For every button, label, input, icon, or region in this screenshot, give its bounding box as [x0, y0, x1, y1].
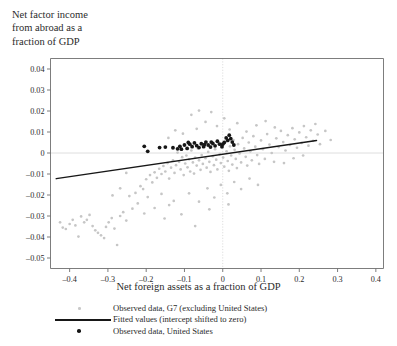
data-point-g7: [275, 137, 278, 140]
data-point-us: [142, 144, 146, 148]
y-tick-label: 0.01: [30, 128, 44, 137]
data-point-g7: [223, 117, 226, 120]
data-point-g7: [172, 200, 175, 203]
data-point-us: [146, 149, 150, 153]
data-point-g7: [195, 128, 198, 131]
data-point-g7: [80, 215, 83, 218]
data-point-g7: [179, 168, 182, 171]
data-point-g7: [190, 149, 193, 152]
data-point-g7: [227, 203, 230, 206]
data-point-g7: [158, 167, 161, 170]
data-point-g7: [234, 158, 237, 161]
data-point-us: [197, 146, 201, 150]
data-point-g7: [153, 207, 156, 210]
data-point-g7: [237, 143, 240, 146]
data-point-us: [213, 144, 217, 148]
data-point-g7: [223, 165, 226, 168]
data-point-us: [171, 146, 175, 150]
data-point-g7: [273, 160, 276, 163]
data-point-g7: [210, 111, 213, 114]
data-point-g7: [226, 160, 229, 163]
gray-dot-marker-icon: [78, 307, 81, 310]
data-point-g7: [198, 159, 201, 162]
data-point-g7: [103, 237, 106, 240]
data-point-us: [202, 143, 206, 147]
data-point-g7: [207, 151, 210, 154]
data-point-g7: [280, 130, 283, 133]
data-point-g7: [215, 158, 218, 161]
data-point-g7: [182, 132, 185, 135]
data-point-g7: [302, 154, 305, 157]
data-point-g7: [184, 162, 187, 165]
data-point-g7: [198, 200, 201, 203]
data-point-g7: [293, 138, 296, 141]
data-point-g7: [266, 133, 269, 136]
data-point-g7: [88, 214, 91, 217]
data-point-g7: [329, 139, 332, 142]
data-point-g7: [305, 136, 308, 139]
data-point-us: [232, 143, 236, 147]
data-point-g7: [173, 172, 176, 175]
data-point-g7: [208, 208, 211, 211]
y-tick-label: –0.05: [25, 254, 44, 263]
data-point-g7: [254, 145, 257, 148]
data-point-us: [183, 143, 187, 147]
data-point-g7: [149, 174, 152, 177]
data-point-g7: [236, 167, 239, 170]
y-tick-label: –0.04: [25, 233, 44, 242]
data-point-g7: [283, 162, 286, 165]
data-point-g7: [206, 187, 209, 190]
data-point-g7: [231, 163, 234, 166]
fitted-line-layer: [56, 140, 316, 178]
data-point-g7: [136, 202, 139, 205]
data-point-g7: [113, 227, 116, 230]
axes-frame-layer: [51, 59, 384, 269]
data-point-g7: [156, 176, 159, 179]
data-point-g7: [319, 143, 322, 146]
data-point-g7: [164, 170, 167, 173]
data-point-g7: [153, 171, 156, 174]
g7-points-layer: [59, 109, 332, 246]
data-point-g7: [204, 121, 207, 124]
data-point-g7: [282, 141, 285, 144]
y-tick-label: –0.01: [25, 170, 44, 179]
y-tick-label: 0.03: [30, 86, 44, 95]
data-point-us: [209, 140, 213, 144]
data-point-g7: [190, 113, 193, 116]
data-point-g7: [71, 218, 74, 221]
data-point-g7: [175, 164, 178, 167]
data-point-g7: [270, 152, 273, 155]
data-point-g7: [226, 192, 229, 195]
data-point-g7: [192, 161, 195, 164]
data-point-g7: [260, 139, 263, 142]
data-point-g7: [122, 211, 125, 214]
data-point-us: [227, 133, 231, 137]
data-point-g7: [100, 234, 103, 237]
data-point-g7: [258, 163, 261, 166]
data-point-g7: [225, 150, 228, 153]
data-point-g7: [143, 212, 146, 215]
data-point-g7: [162, 165, 165, 168]
data-point-g7: [219, 162, 222, 165]
data-point-g7: [222, 156, 225, 159]
data-point-g7: [257, 184, 260, 187]
data-point-us: [178, 144, 182, 148]
x-axis-title: Net foreign assets as a fraction of GDP: [0, 281, 397, 292]
data-point-g7: [209, 171, 212, 174]
data-point-g7: [233, 181, 236, 184]
data-point-g7: [303, 125, 306, 128]
legend-label-fitted: Fitted values (intercept shifted to zero…: [113, 314, 246, 324]
data-point-g7: [284, 149, 287, 152]
axis-tick-labels-layer: 0.040.030.020.010–0.01–0.02–0.03–0.04–0.…: [25, 65, 381, 283]
data-point-g7: [186, 166, 189, 169]
data-point-g7: [200, 154, 203, 157]
scatter-plot: 0.040.030.020.010–0.01–0.02–0.03–0.04–0.…: [0, 0, 397, 346]
data-point-g7: [219, 184, 222, 187]
data-point-g7: [208, 160, 211, 163]
data-point-g7: [247, 141, 250, 144]
data-point-g7: [83, 221, 86, 224]
data-point-g7: [307, 144, 310, 147]
data-point-g7: [246, 164, 249, 167]
data-point-g7: [110, 217, 113, 220]
data-point-g7: [160, 173, 163, 176]
